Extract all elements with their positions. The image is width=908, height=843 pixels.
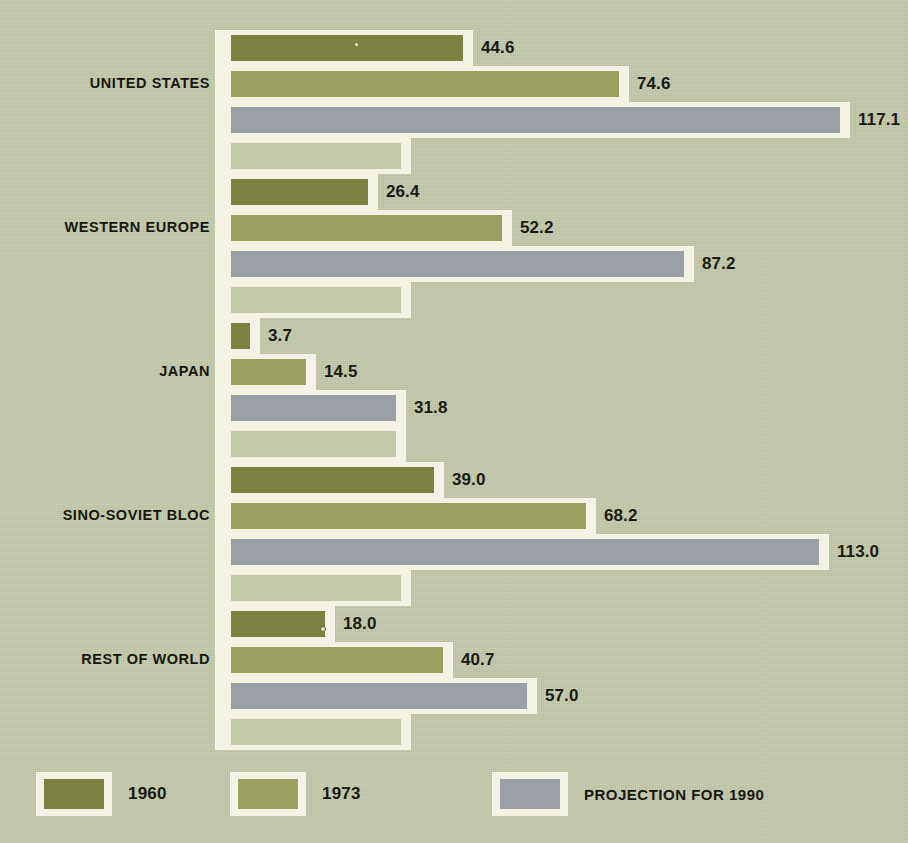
bar[interactable]	[231, 215, 502, 241]
legend-swatch	[492, 772, 568, 816]
bar-row[interactable]	[215, 210, 512, 246]
category-label: REST OF WORLD	[81, 651, 210, 667]
bar-value-label: 31.8	[414, 398, 448, 418]
bar-row[interactable]	[215, 498, 596, 534]
spacer-fill	[231, 287, 401, 313]
bar-value-label: 117.1	[858, 110, 900, 130]
bar-row[interactable]	[215, 66, 629, 102]
bar-value-label: 40.7	[461, 650, 495, 670]
spacer-fill	[231, 431, 396, 457]
legend-swatch-fill	[44, 779, 104, 809]
legend-swatch	[230, 772, 306, 816]
legend-label: 1973	[322, 784, 361, 804]
category-label: UNITED STATES	[90, 75, 210, 91]
spacer-fill	[231, 575, 401, 601]
legend-item[interactable]: 1973	[230, 772, 361, 816]
bar-row[interactable]	[215, 30, 473, 66]
bar-row[interactable]	[215, 102, 850, 138]
legend-label: 1960	[128, 784, 167, 804]
bar-row[interactable]	[215, 606, 335, 642]
bar[interactable]	[231, 35, 463, 61]
bar[interactable]	[231, 395, 396, 421]
group-spacer-row	[215, 282, 411, 318]
spacer-fill	[231, 143, 401, 169]
bar[interactable]	[231, 179, 368, 205]
bar-row[interactable]	[215, 642, 453, 678]
chart-legend: 19601973PROJECTION FOR 1990	[0, 772, 908, 828]
bar[interactable]	[231, 683, 527, 709]
bar-value-label: 39.0	[452, 470, 486, 490]
bar-row[interactable]	[215, 246, 694, 282]
bar-value-label: 87.2	[702, 254, 736, 274]
legend-item[interactable]: 1960	[36, 772, 167, 816]
bar-value-label: 52.2	[520, 218, 554, 238]
bar-value-label: 113.0	[837, 542, 879, 562]
bar-row[interactable]	[215, 534, 829, 570]
bar[interactable]	[231, 539, 819, 565]
bar-row[interactable]	[215, 174, 378, 210]
bar-row[interactable]	[215, 678, 537, 714]
bar-value-label: 3.7	[268, 326, 292, 346]
legend-swatch	[36, 772, 112, 816]
group-spacer-row	[215, 138, 411, 174]
bar-value-label: 57.0	[545, 686, 579, 706]
bar[interactable]	[231, 107, 840, 133]
bar-value-label: 44.6	[481, 38, 515, 58]
group-spacer-row	[215, 426, 406, 462]
bar[interactable]	[231, 323, 250, 349]
bar[interactable]	[231, 611, 325, 637]
bar-row[interactable]	[215, 462, 444, 498]
bar[interactable]	[231, 647, 443, 673]
bar[interactable]	[231, 467, 434, 493]
legend-item[interactable]: PROJECTION FOR 1990	[492, 772, 764, 816]
bar[interactable]	[231, 71, 619, 97]
category-label: SINO-SOVIET BLOC	[63, 507, 210, 523]
bar[interactable]	[231, 251, 684, 277]
bar[interactable]	[231, 359, 306, 385]
bar[interactable]	[231, 503, 586, 529]
legend-swatch-fill	[500, 779, 560, 809]
legend-label: PROJECTION FOR 1990	[584, 786, 764, 803]
legend-swatch-fill	[238, 779, 298, 809]
category-label: JAPAN	[159, 363, 210, 379]
bar-row[interactable]	[215, 318, 260, 354]
chart-root: 44.674.6117.1UNITED STATES26.452.287.2WE…	[0, 0, 908, 843]
bar-value-label: 26.4	[386, 182, 420, 202]
bar-value-label: 18.0	[343, 614, 377, 634]
bar-row[interactable]	[215, 354, 316, 390]
spacer-fill	[231, 719, 401, 745]
bar-value-label: 74.6	[637, 74, 671, 94]
group-spacer-row	[215, 570, 411, 606]
plot-area: 44.674.6117.1UNITED STATES26.452.287.2WE…	[0, 0, 908, 760]
bar-value-label: 14.5	[324, 362, 358, 382]
category-label: WESTERN EUROPE	[65, 219, 210, 235]
bar-row[interactable]	[215, 390, 406, 426]
group-spacer-row	[215, 714, 411, 750]
bar-value-label: 68.2	[604, 506, 638, 526]
